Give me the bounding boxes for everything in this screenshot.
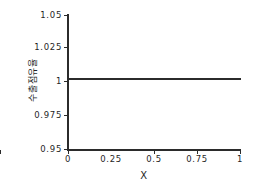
x-tick-label-1-wrap: 0.25 <box>91 153 131 165</box>
y-tick-label-1: 0.975 <box>16 110 62 120</box>
y-axis-title: 수출점유율 <box>26 59 39 102</box>
chart-figure: 0.95 0.975 1 1.025 1.05 0 0.25 0.5 0.75 … <box>0 0 262 192</box>
x-tick-label-4-wrap: 1 <box>220 153 260 165</box>
x-tick-mark-1 <box>0 150 1 154</box>
y-tick-mark-3 <box>64 47 68 48</box>
x-tick-label-2-wrap: 0.5 <box>134 153 174 165</box>
y-tick-mark-4 <box>64 15 68 16</box>
x-tick-label-2: 0.5 <box>134 153 174 165</box>
y-tick-label-3-wrap: 1.025 <box>14 42 62 52</box>
x-tick-label-3: 0.75 <box>177 153 217 165</box>
x-tick-label-0: 0 <box>48 153 88 165</box>
y-tick-label-1-wrap: 0.975 <box>14 110 62 120</box>
y-tick-label-4-wrap: 1.05 <box>14 10 62 20</box>
x-tick-label-0-wrap: 0 <box>48 153 88 165</box>
y-axis-title-wrap: 수출점유율 <box>4 52 60 108</box>
x-tick-label-4: 1 <box>220 153 260 165</box>
y-axis-line <box>67 14 69 151</box>
y-tick-mark-1 <box>64 115 68 116</box>
x-tick-label-3-wrap: 0.75 <box>177 153 217 165</box>
y-tick-mark-2 <box>64 81 68 82</box>
x-tick-label-1: 0.25 <box>91 153 131 165</box>
y-tick-label-3: 1.025 <box>16 42 62 52</box>
series-line-constant <box>68 78 241 80</box>
x-axis-title: X <box>124 170 164 181</box>
y-tick-label-4: 1.05 <box>16 10 62 20</box>
